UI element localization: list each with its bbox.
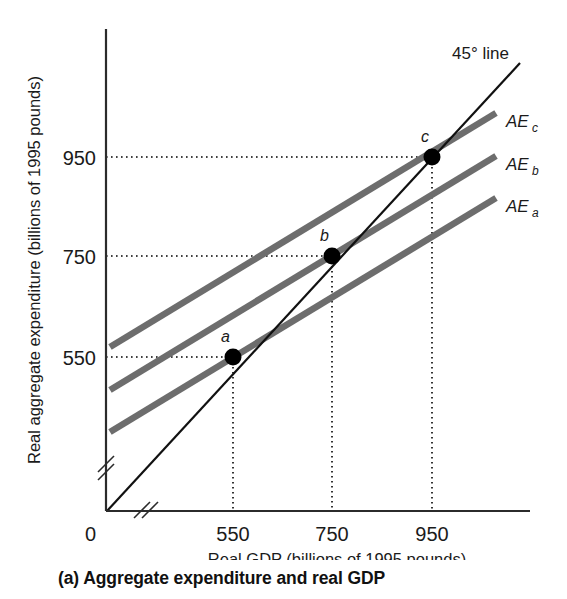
figure-panel-a: a b c AE c AE b AE a 45° line 950 750 55…: [0, 0, 567, 599]
x-tick-750: 750: [315, 523, 348, 545]
point-c-label: c: [421, 128, 429, 145]
x-tick-950: 950: [415, 523, 448, 545]
ae-c-label: AE: [505, 112, 529, 131]
curve-label-ae-b: AE b: [505, 155, 539, 178]
y-tick-750: 750: [63, 246, 96, 268]
ae-b-line: [110, 156, 496, 390]
x-axis-tick-labels: 550 750 950: [216, 523, 448, 545]
ae-b-sublabel: b: [532, 164, 539, 178]
y-tick-950: 950: [63, 147, 96, 169]
horizontal-guide-lines: [106, 157, 432, 357]
aggregate-expenditure-chart: a b c AE c AE b AE a 45° line 950 750 55…: [0, 0, 567, 560]
axes: [106, 29, 530, 511]
point-c-dot[interactable]: [424, 149, 441, 166]
point-a-dot[interactable]: [225, 349, 242, 366]
point-b-label: b: [320, 227, 329, 244]
origin-label: 0: [85, 523, 96, 545]
point-a-label: a: [221, 328, 230, 345]
ae-b-label: AE: [505, 155, 529, 174]
x-tick-550: 550: [216, 523, 249, 545]
forty-five-degree-annotation: 45° line: [452, 44, 509, 63]
y-axis-tick-labels: 950 750 550: [63, 147, 96, 369]
ae-c-sublabel: c: [532, 121, 538, 135]
point-b-dot[interactable]: [324, 248, 341, 265]
y-tick-550: 550: [63, 347, 96, 369]
figure-caption: (a) Aggregate expenditure and real GDP: [58, 568, 558, 589]
x-axis-title: Real GDP (billions of 1995 pounds): [208, 550, 466, 560]
y-axis-title: Real aggregate expenditure (billions of …: [25, 76, 43, 464]
ae-a-label: AE: [505, 197, 529, 216]
curve-label-ae-c: AE c: [505, 112, 538, 135]
curve-label-ae-a: AE a: [505, 197, 539, 220]
forty-five-degree-line: [107, 63, 520, 511]
ae-a-sublabel: a: [532, 206, 539, 220]
